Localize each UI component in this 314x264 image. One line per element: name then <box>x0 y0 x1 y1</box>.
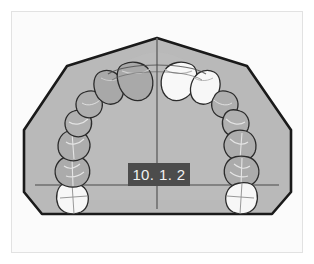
figure-number-label: 10. 1. 2 <box>128 163 190 186</box>
dental-cast-illustration <box>0 0 314 264</box>
dental-cast-figure: 10. 1. 2 <box>0 0 314 264</box>
tooth-upper-right-second-molar <box>226 183 258 214</box>
